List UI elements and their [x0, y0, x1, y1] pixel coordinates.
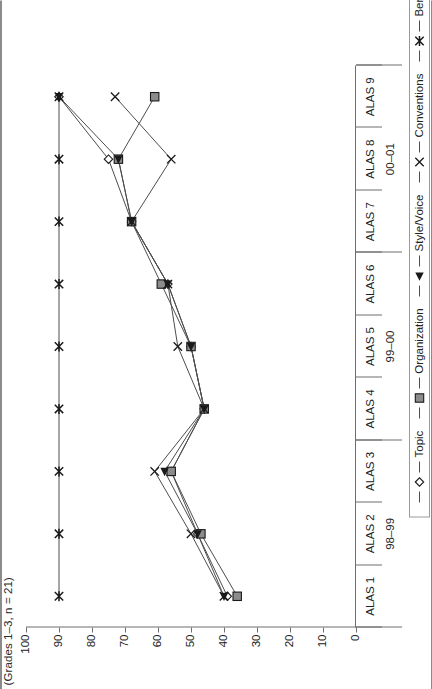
value-axis-tick [224, 627, 225, 632]
value-axis-tick-label: 50 [185, 634, 197, 647]
chart-title: (Grades 1–3, n = 21) [2, 0, 14, 689]
legend-line-segment [419, 255, 420, 266]
asterisk-marker [55, 403, 63, 413]
value-axis-tick-label: 40 [218, 634, 230, 647]
legend-label: Topic [413, 430, 425, 457]
series-markers-topic [55, 92, 232, 600]
asterisk-marker [55, 591, 63, 601]
category-group-separator [356, 626, 402, 627]
value-axis-tick [26, 627, 27, 632]
category-separator [356, 376, 382, 377]
category-group-separator [356, 251, 402, 252]
square-marker [233, 592, 241, 600]
cross-marker [167, 154, 175, 162]
value-axis-tick-label: 70 [119, 634, 131, 647]
legend-item-organization[interactable]: Organization [413, 302, 425, 424]
cross-marker [174, 342, 182, 350]
legend-line-segment [419, 491, 420, 502]
triangle-marker [415, 272, 423, 280]
value-axis-tick-label: 90 [53, 634, 65, 647]
asterisk-marker [55, 279, 63, 289]
value-axis-tick [125, 627, 126, 632]
series-markers-conventions [111, 92, 228, 600]
rotated-chart-wrapper: (Grades 1–3, n = 21) 0102030405060708090… [0, 0, 432, 689]
category-group-separator [356, 64, 402, 65]
value-axis-tick [356, 627, 357, 632]
square-marker [151, 92, 159, 100]
category-label-alas-6: ALAS 6 [364, 264, 376, 303]
asterisk-marker [55, 466, 63, 476]
category-label-alas-1: ALAS 1 [364, 576, 376, 615]
category-separator [356, 564, 382, 565]
legend-item-benchmark[interactable]: Benchmark [413, 0, 425, 67]
legend-line-segment [419, 50, 420, 61]
plot-surface: 0102030405060708090100 ALAS 1ALAS 2ALAS … [26, 65, 356, 627]
legend-label: Style/Voice [413, 194, 425, 251]
plot-area: 0102030405060708090100 ALAS 1ALAS 2ALAS … [26, 65, 356, 627]
cross-marker [151, 467, 159, 475]
value-axis-tick-label: 0 [350, 634, 362, 640]
chart-legend: TopicOrganizationStyle/VoiceConventionsB… [409, 0, 430, 517]
legend-line-segment [419, 377, 420, 388]
asterisk-marker [415, 36, 423, 46]
category-separator [356, 189, 382, 190]
asterisk-marker [55, 528, 63, 538]
diamond-marker [415, 477, 423, 485]
value-axis-tick-label: 100 [20, 634, 32, 653]
value-axis-tick [158, 627, 159, 632]
asterisk-marker [55, 154, 63, 164]
value-axis-tick [257, 627, 258, 632]
category-separator [356, 314, 382, 315]
square-marker [414, 392, 425, 403]
value-axis-tick [323, 627, 324, 632]
series-line-conventions [115, 96, 224, 596]
value-axis-tick [59, 627, 60, 632]
legend-line-segment [419, 141, 420, 152]
category-label-alas-5: ALAS 5 [364, 327, 376, 366]
cross-marker [415, 157, 423, 165]
legend-line-segment [419, 285, 420, 296]
legend-item-style-voice[interactable]: Style/Voice [413, 188, 425, 302]
category-separator [356, 501, 382, 502]
category-label-alas-7: ALAS 7 [364, 202, 376, 241]
legend-line-segment [419, 407, 420, 418]
chart-canvas: (Grades 1–3, n = 21) 0102030405060708090… [0, 0, 432, 689]
diamond-marker [414, 476, 425, 487]
value-axis-tick [290, 627, 291, 632]
category-label-alas-9: ALAS 9 [364, 77, 376, 116]
asterisk-marker [414, 35, 425, 46]
square-marker [415, 393, 423, 401]
value-axis-tick-label: 80 [86, 634, 98, 647]
category-label-alas-8: ALAS 8 [364, 139, 376, 178]
legend-line-segment [419, 171, 420, 182]
value-axis-tick-label: 30 [251, 634, 263, 647]
asterisk-marker [55, 341, 63, 351]
value-axis-tick-label: 10 [317, 634, 329, 647]
series-layer [26, 65, 356, 627]
legend-item-conventions[interactable]: Conventions [413, 67, 425, 188]
value-axis-tick-label: 20 [284, 634, 296, 647]
cross-marker [111, 92, 119, 100]
series-markers-style-voice [55, 93, 228, 601]
series-line-style-voice [59, 96, 224, 596]
value-axis-tick-label: 60 [152, 634, 164, 647]
legend-line-segment [419, 20, 420, 31]
triangle-marker [414, 270, 425, 281]
series-line-topic [59, 96, 227, 596]
legend-label: Benchmark [413, 0, 425, 16]
category-group-label-2: 00–01 [384, 143, 396, 175]
asterisk-marker [55, 216, 63, 226]
category-label-alas-4: ALAS 4 [364, 389, 376, 428]
value-axis-tick [92, 627, 93, 632]
legend-line-segment [419, 461, 420, 472]
legend-label: Conventions [413, 73, 425, 137]
legend-label: Organization [413, 308, 425, 373]
legend-item-topic[interactable]: Topic [413, 424, 425, 508]
value-axis-tick [191, 627, 192, 632]
category-label-alas-2: ALAS 2 [364, 514, 376, 553]
cross-marker [414, 156, 425, 167]
category-separator [356, 126, 382, 127]
category-group-separator [356, 439, 402, 440]
category-label-alas-3: ALAS 3 [364, 451, 376, 490]
category-group-label-1: 99–00 [384, 330, 396, 362]
